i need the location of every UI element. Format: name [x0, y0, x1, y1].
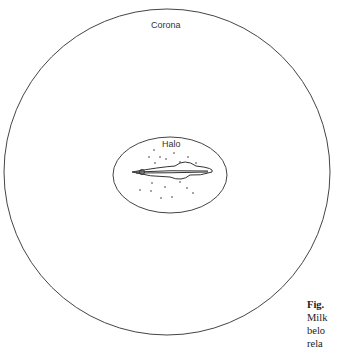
caption-line-2: Milk — [307, 311, 327, 324]
caption-fig: Fig. — [307, 298, 324, 311]
corona-label: Corona — [151, 20, 181, 30]
halo-label: Halo — [162, 139, 181, 149]
galactic-disk — [132, 162, 212, 179]
caption-line-4: rela — [307, 337, 323, 350]
corona-circle — [4, 9, 330, 335]
globular-clusters — [139, 149, 197, 199]
caption-line-3: belo — [307, 324, 325, 337]
